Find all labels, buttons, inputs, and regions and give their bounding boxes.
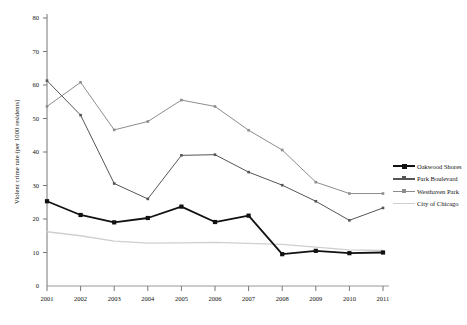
legend-label-oakwood-shores: Oakwood Shores xyxy=(415,163,462,170)
y-axis-tick-label: 30 xyxy=(25,182,39,189)
legend-swatch-city-of-chicago xyxy=(393,198,415,209)
x-axis-tick-label: 2005 xyxy=(166,295,196,302)
y-axis-tick-label: 60 xyxy=(25,81,39,88)
legend-label-westhaven-park: Westhaven Park xyxy=(415,188,459,195)
x-axis-tick-label: 2003 xyxy=(99,295,129,302)
y-axis-tick-label: 0 xyxy=(25,282,39,289)
legend-item-city-of-chicago[interactable]: City of Chicago xyxy=(393,198,467,211)
y-axis-tick-label: 80 xyxy=(25,14,39,21)
x-axis-tick-label: 2007 xyxy=(234,295,264,302)
y-axis-tick-label: 10 xyxy=(25,249,39,256)
legend-item-westhaven-park[interactable]: Westhaven Park xyxy=(393,185,467,198)
x-axis-tick-label: 2006 xyxy=(200,295,230,302)
legend-item-park-boulevard[interactable]: Park Boulevard xyxy=(393,173,467,186)
x-axis-tick-label: 2010 xyxy=(334,295,364,302)
legend-swatch-oakwood-shores xyxy=(393,161,415,172)
y-axis-tick-label: 20 xyxy=(25,215,39,222)
legend-label-city-of-chicago: City of Chicago xyxy=(415,200,459,207)
x-axis-tick-label: 2008 xyxy=(267,295,297,302)
legend-swatch-park-boulevard xyxy=(393,173,415,184)
y-axis-tick-label: 50 xyxy=(25,115,39,122)
x-axis-tick-label: 2011 xyxy=(368,295,398,302)
legend-swatch-westhaven-park xyxy=(393,186,415,197)
y-axis-tick-label: 40 xyxy=(25,148,39,155)
violent-crime-rate-line-chart: Violent crime rate (per 1000 residents) … xyxy=(0,0,467,325)
x-axis-tick-label: 2001 xyxy=(32,295,62,302)
x-axis-tick-label: 2004 xyxy=(133,295,163,302)
x-axis-tick-label: 2002 xyxy=(66,295,96,302)
x-axis-tick-label: 2009 xyxy=(301,295,331,302)
chart-legend: Oakwood Shores Park Boulevard Westhaven … xyxy=(393,160,467,210)
legend-item-oakwood-shores[interactable]: Oakwood Shores xyxy=(393,160,467,173)
y-axis-tick-label: 70 xyxy=(25,48,39,55)
legend-label-park-boulevard: Park Boulevard xyxy=(415,175,458,182)
